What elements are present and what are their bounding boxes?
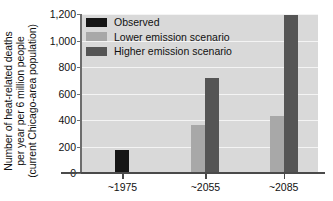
gridline (81, 67, 318, 68)
y-tick-label: 600 (40, 88, 76, 100)
y-tick-label: 400 (40, 114, 76, 126)
y-tick-label: 1,200 (40, 8, 76, 20)
y-tick-mark (77, 173, 81, 174)
legend-item: Higher emission scenario (86, 44, 232, 59)
legend-item: Observed (86, 15, 232, 30)
y-axis-title-line-2: per year per 6 million people (14, 36, 26, 166)
legend-swatch (86, 47, 107, 56)
y-tick-mark (77, 147, 81, 148)
y-tick-mark (77, 67, 81, 68)
x-tick-mark (205, 173, 207, 179)
y-axis-title-line-3: (current Chicago-area population) (26, 24, 38, 178)
x-tick-mark (122, 173, 124, 179)
bar (191, 125, 205, 173)
legend-label: Higher emission scenario (114, 45, 232, 57)
bar (270, 116, 284, 173)
x-tick-label: ~1975 (87, 181, 157, 193)
x-tick-label: ~2085 (249, 181, 319, 193)
legend-swatch (86, 18, 107, 27)
x-tick-mark (284, 173, 286, 179)
bar (284, 15, 298, 173)
y-tick-label: 1,000 (40, 35, 76, 47)
y-tick-mark (77, 41, 81, 42)
y-tick-mark (77, 14, 81, 15)
bar-chart-figure: Number of heat-related deaths per year p… (0, 0, 333, 201)
y-tick-mark (77, 94, 81, 95)
y-axis-title-line-1: Number of heat-related deaths (2, 31, 14, 171)
legend: ObservedLower emission scenarioHigher em… (86, 15, 232, 59)
x-axis-line (61, 172, 325, 174)
y-tick-label: 200 (40, 141, 76, 153)
y-tick-mark (77, 120, 81, 121)
bar (115, 150, 129, 173)
cropped-caption-text (70, 196, 320, 201)
legend-item: Lower emission scenario (86, 30, 232, 45)
legend-swatch (86, 32, 107, 41)
y-axis-tick-labels: 02004006008001,0001,200 (40, 0, 76, 201)
legend-label: Lower emission scenario (114, 31, 230, 43)
legend-label: Observed (114, 16, 160, 28)
y-tick-label: 800 (40, 61, 76, 73)
bar (205, 78, 219, 173)
x-tick-label: ~2055 (170, 181, 240, 193)
gridline (81, 94, 318, 95)
